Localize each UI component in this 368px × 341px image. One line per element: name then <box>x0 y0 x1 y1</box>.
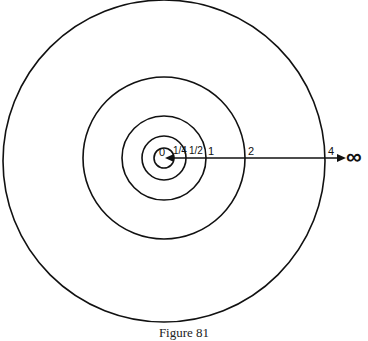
label-two: 2 <box>248 146 254 157</box>
infinity-symbol: ∞ <box>346 146 362 168</box>
label-half: 1/2 <box>189 146 203 156</box>
figure-caption: Figure 81 <box>0 325 368 341</box>
circle-radius-4 <box>3 0 325 322</box>
arrowhead-right-icon <box>337 154 346 162</box>
label-zero: 0 <box>159 147 165 158</box>
label-one: 1 <box>208 146 214 157</box>
label-four: 4 <box>328 146 334 157</box>
label-quarter: 1/4 <box>173 146 187 156</box>
